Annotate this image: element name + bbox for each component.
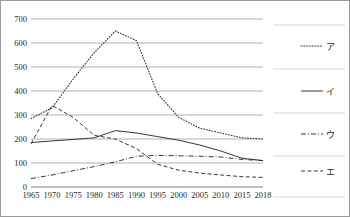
x-tick-label: 1970	[44, 190, 61, 200]
x-tick-label: 2018	[255, 190, 272, 200]
y-tick-label: 300	[14, 110, 27, 120]
x-tick-label: 2010	[212, 190, 229, 200]
y-tick-label: 600	[14, 38, 27, 48]
y-tick-label: 700	[14, 14, 27, 24]
series-line-エ	[31, 105, 263, 177]
x-tick-label: 2000	[170, 190, 187, 200]
series-line-ウ	[31, 155, 263, 178]
series-line-ア	[31, 31, 263, 139]
gridlines-group	[31, 19, 263, 187]
x-axis-tick-labels: 1965197019751980198519901995200020052010…	[23, 190, 272, 200]
x-tick-label: 1975	[65, 190, 82, 200]
legend-label-エ: エ	[326, 167, 335, 177]
legend-label-ア: ア	[326, 42, 335, 52]
x-tick-label: 1990	[128, 190, 145, 200]
y-axis-tick-labels: 0100200300400500600700	[14, 14, 27, 192]
x-tick-label: 2005	[191, 190, 208, 200]
y-tick-label: 400	[14, 86, 27, 96]
x-tick-label: 2015	[233, 190, 250, 200]
line-chart: 0100200300400500600700 19651970197519801…	[1, 1, 350, 217]
y-tick-label: 100	[14, 158, 27, 168]
data-series-group	[31, 31, 263, 179]
y-tick-label: 200	[14, 134, 27, 144]
x-tick-label: 1985	[107, 190, 124, 200]
x-tick-label: 1965	[23, 190, 40, 200]
x-tick-label: 1995	[149, 190, 166, 200]
y-tick-label: 500	[14, 62, 27, 72]
chart-legend: アイウエ	[273, 25, 345, 197]
chart-frame: 0100200300400500600700 19651970197519801…	[0, 0, 350, 217]
x-tick-label: 1980	[86, 190, 103, 200]
legend-label-ウ: ウ	[326, 130, 335, 140]
legend-label-イ: イ	[326, 87, 335, 97]
